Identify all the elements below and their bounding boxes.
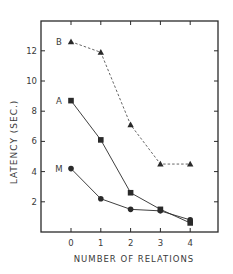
circle-marker — [158, 208, 164, 214]
x-tick-label: 2 — [128, 238, 133, 248]
series-a: A — [56, 96, 193, 226]
x-tick-label: 4 — [187, 238, 192, 248]
triangle-marker — [127, 122, 133, 128]
line-chart: 24681012 01234 LATENCY (SEC.) NUMBER OF … — [0, 0, 233, 274]
square-marker — [68, 98, 74, 104]
series-label: A — [56, 96, 62, 106]
y-tick-label: 10 — [26, 76, 37, 86]
circle-marker — [68, 166, 74, 172]
series-label: M — [55, 164, 62, 174]
square-marker — [98, 137, 104, 143]
circle-marker — [98, 196, 104, 202]
data-series: BAM — [55, 37, 193, 226]
series-m: M — [55, 164, 193, 223]
y-tick-label: 2 — [32, 197, 37, 207]
x-tick-label: 3 — [158, 238, 163, 248]
x-axis-ticks: 01234 — [68, 21, 193, 248]
series-line — [71, 101, 190, 223]
square-marker — [128, 190, 134, 196]
y-tick-label: 8 — [32, 106, 37, 116]
circle-marker — [187, 217, 193, 223]
series-b: B — [56, 37, 193, 167]
y-axis-label: LATENCY (SEC.) — [9, 100, 19, 185]
y-axis-ticks: 24681012 — [26, 46, 218, 207]
series-line — [71, 42, 190, 164]
x-tick-label: 0 — [68, 238, 73, 248]
triangle-marker — [68, 39, 74, 45]
y-tick-label: 12 — [26, 46, 37, 56]
x-tick-label: 1 — [98, 238, 103, 248]
triangle-marker — [157, 161, 163, 167]
series-label: B — [56, 37, 62, 47]
circle-marker — [128, 207, 134, 213]
x-axis-label: NUMBER OF RELATIONS — [74, 254, 195, 264]
y-tick-label: 6 — [32, 136, 37, 146]
y-tick-label: 4 — [32, 167, 37, 177]
